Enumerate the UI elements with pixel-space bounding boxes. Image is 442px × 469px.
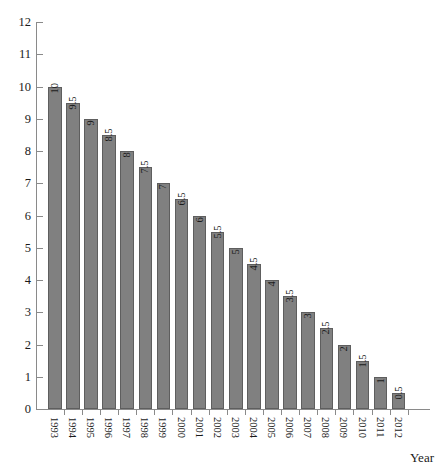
x-axis-tick — [227, 409, 228, 415]
bar — [157, 183, 171, 409]
x-axis-tick-label: 2012 — [392, 417, 403, 438]
y-axis-tick-label: 5 — [5, 242, 31, 255]
x-axis-tick — [317, 409, 318, 415]
bar-value-label: 2 — [339, 346, 350, 351]
bar — [211, 232, 225, 409]
x-axis-tick — [245, 409, 246, 415]
bar — [265, 280, 279, 409]
bar — [338, 345, 352, 410]
x-axis-tick-label: 1995 — [85, 417, 96, 438]
bar — [247, 264, 261, 409]
y-axis-tick-label: 6 — [5, 210, 31, 223]
bar-value-label: 8.5 — [104, 128, 115, 141]
x-axis-tick — [335, 409, 336, 415]
bar — [120, 151, 134, 409]
x-axis-tick-label: 2008 — [320, 417, 331, 438]
y-axis-tick — [36, 22, 43, 23]
bar-value-label: 6 — [194, 217, 205, 222]
bar-value-label: 0.5 — [393, 386, 404, 399]
y-axis-tick — [36, 216, 43, 217]
y-axis-tick-label: 9 — [5, 113, 31, 126]
bar — [84, 119, 98, 409]
x-axis-tick-label: 2005 — [266, 417, 277, 438]
x-axis-tick — [390, 409, 391, 415]
x-axis-title: Year — [410, 451, 434, 464]
bar-value-label: 9 — [86, 120, 97, 125]
x-axis-tick — [136, 409, 137, 415]
x-axis-tick-label: 2000 — [175, 417, 186, 438]
x-axis-tick — [64, 409, 65, 415]
y-axis-tick — [36, 312, 43, 313]
bar-value-label: 5 — [230, 249, 241, 254]
bar — [66, 103, 80, 409]
x-axis-tick — [408, 409, 409, 415]
bar-value-label: 4.5 — [248, 257, 259, 270]
bar — [229, 248, 243, 409]
x-axis-tick-label: 1996 — [103, 417, 114, 438]
y-axis-tick-label: 3 — [5, 306, 31, 319]
x-axis-tick — [281, 409, 282, 415]
x-axis-tick — [118, 409, 119, 415]
x-axis-tick — [263, 409, 264, 415]
bar — [193, 216, 207, 410]
y-axis-tick — [36, 183, 43, 184]
x-axis-tick-label: 1998 — [139, 417, 150, 438]
bar — [320, 328, 334, 409]
bar-value-label: 1 — [375, 378, 386, 383]
y-axis-tick — [36, 151, 43, 152]
x-axis-tick-label: 2007 — [302, 417, 313, 438]
bar-value-label: 9.5 — [67, 96, 78, 109]
x-axis-tick-label: 2002 — [211, 417, 222, 438]
bar-value-label: 3 — [303, 314, 314, 319]
x-axis-tick — [353, 409, 354, 415]
x-axis-spine — [36, 409, 430, 410]
bar — [175, 199, 189, 409]
bar-value-label: 4 — [267, 281, 278, 286]
y-axis-tick-label: 4 — [5, 274, 31, 287]
y-axis-tick-label: 10 — [5, 81, 31, 94]
bar-value-label: 5.5 — [212, 225, 223, 238]
bar — [356, 361, 370, 409]
x-axis-tick — [172, 409, 173, 415]
x-axis-tick — [191, 409, 192, 415]
x-axis-tick-label: 1993 — [48, 417, 59, 438]
bar — [283, 296, 297, 409]
x-axis-tick-label: 1997 — [121, 417, 132, 438]
x-axis-tick — [209, 409, 210, 415]
y-axis-tick-label: 1 — [5, 371, 31, 384]
x-axis-tick-label: 2011 — [374, 417, 385, 438]
x-axis-tick-label: 1994 — [66, 417, 77, 438]
y-axis-tick — [36, 280, 43, 281]
bar-value-label: 3.5 — [285, 290, 296, 303]
bar — [139, 167, 153, 409]
bar-value-label: 7.5 — [140, 161, 151, 174]
bar-value-label: 7 — [158, 185, 169, 190]
x-axis-tick-label: 1999 — [157, 417, 168, 438]
y-axis-tick — [36, 87, 43, 88]
x-axis-tick-label: 2010 — [356, 417, 367, 438]
x-axis-tick-label: 2009 — [338, 417, 349, 438]
y-axis-tick — [36, 119, 43, 120]
bar — [48, 87, 62, 410]
x-axis-tick-label: 2004 — [247, 417, 258, 438]
y-axis-tick-label: 12 — [5, 16, 31, 29]
x-axis-tick — [154, 409, 155, 415]
x-axis-tick — [299, 409, 300, 415]
y-axis-tick-label: 0 — [5, 403, 31, 416]
bar-value-label: 10 — [49, 83, 60, 94]
y-axis-tick-label: 8 — [5, 145, 31, 158]
x-axis-tick — [82, 409, 83, 415]
x-axis-tick-label: 2001 — [193, 417, 204, 438]
y-axis-tick — [36, 409, 43, 410]
x-axis-tick-label: 2003 — [229, 417, 240, 438]
x-axis-tick-label: 2006 — [284, 417, 295, 438]
bar-value-label: 8 — [122, 152, 133, 157]
x-axis-tick — [372, 409, 373, 415]
bar-value-label: 1.5 — [357, 354, 368, 367]
y-axis-tick — [36, 248, 43, 249]
y-axis-tick-label: 7 — [5, 177, 31, 190]
bar-value-label: 2.5 — [321, 322, 332, 335]
y-axis-tick — [36, 345, 43, 346]
x-axis-tick — [100, 409, 101, 415]
y-axis-tick — [36, 54, 43, 55]
